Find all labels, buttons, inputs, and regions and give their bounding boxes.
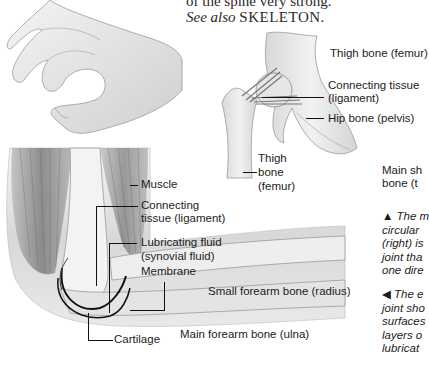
label-synovial-fluid: (synovial fluid) (141, 250, 215, 263)
label-hip-bone: Hip bone (pelvis) (328, 112, 414, 125)
label-membrane: Membrane (141, 265, 196, 278)
lubricating-leader-v (109, 243, 110, 313)
muscle-leader (130, 185, 138, 186)
hip-ligament-leader (262, 97, 324, 98)
label-connecting: Connecting (141, 199, 199, 212)
connecting-leader-v (96, 206, 97, 286)
membrane-leader-h (130, 310, 165, 311)
label-ulna: Main forearm bone (ulna) (180, 328, 309, 341)
caption-hip: ▲ The m circular (right) is joint tha on… (382, 210, 429, 278)
caption-elbow: ◀ The e joint sho surfaces layers o lubr… (382, 288, 425, 356)
label-lubricating-fluid: Lubricating fluid (141, 236, 222, 249)
see-also-link[interactable]: SKELETON (239, 9, 320, 25)
label-ligament: (ligament) (328, 92, 379, 105)
hand-illustration (0, 0, 190, 140)
cartilage-leader-h (88, 340, 113, 341)
label-tissue-ligament: tissue (ligament) (141, 212, 225, 225)
membrane-leader-v (164, 282, 165, 310)
label-main-shin: Main sh (382, 164, 422, 177)
label-muscle: Muscle (141, 178, 177, 191)
connecting-leader-h (96, 206, 138, 207)
label-cartilage: Cartilage (114, 333, 160, 346)
triangle-up-icon: ▲ (382, 210, 393, 222)
lubricating-leader-h (109, 243, 137, 244)
label-connecting-tissue: Connecting tissue (328, 79, 419, 92)
label-radius: Small forearm bone (radius) (208, 285, 351, 298)
see-also-prefix: See also (186, 9, 236, 25)
hip-bone-leader (306, 118, 324, 119)
see-also-suffix: . (321, 9, 325, 25)
label-thigh-bone-femur: Thigh bone (femur) (330, 47, 428, 60)
see-also: See also SKELETON. (186, 9, 324, 26)
cartilage-leader-v (88, 313, 89, 340)
triangle-left-icon: ◀ (382, 288, 391, 300)
label-bone-t: bone (t (382, 177, 418, 190)
